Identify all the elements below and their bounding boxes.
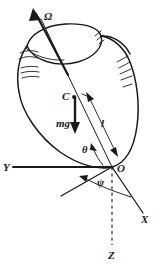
origin-label: O — [117, 162, 125, 174]
theta-label: θ — [82, 144, 88, 155]
top-body-shoulder — [101, 36, 130, 54]
diagram-canvas: Ω C mg l Y X Z O — [0, 0, 161, 267]
axis-z-label: Z — [107, 249, 115, 261]
weight-label: mg — [56, 117, 71, 129]
axis-y-label: Y — [3, 161, 11, 173]
top-rim-back — [27, 24, 101, 46]
distance-label: l — [101, 117, 105, 129]
psi-label: ψ — [97, 177, 105, 188]
center-of-mass-label: C — [62, 90, 70, 102]
weight-arrow — [70, 97, 80, 134]
axis-x-label: X — [140, 213, 149, 225]
psi-angle — [79, 175, 131, 197]
theta-angle — [90, 143, 103, 165]
omega-label: Ω — [44, 10, 53, 22]
line-of-nodes — [61, 167, 112, 196]
origin-dot — [110, 165, 113, 168]
spinning-top-diagram: Ω C mg l Y X Z O — [0, 0, 161, 267]
